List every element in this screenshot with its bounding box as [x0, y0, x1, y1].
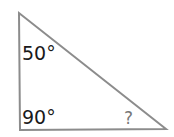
triangle-diagram: 50° 90° ?	[0, 0, 174, 137]
angle-label-unknown: ?	[124, 108, 133, 128]
angle-label-bottom-left: 90°	[22, 106, 56, 128]
angle-label-top: 50°	[22, 42, 56, 64]
